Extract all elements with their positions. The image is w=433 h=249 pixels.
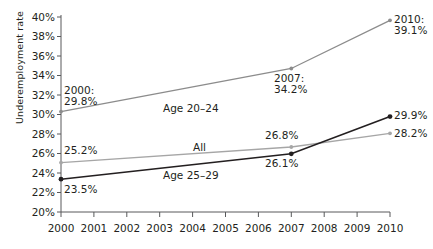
annotation-2007-all-value: 26.8% [265, 130, 298, 142]
x-tick-2001: 2001 [81, 222, 108, 234]
x-tick-2010: 2010 [377, 222, 404, 234]
annotation-2007-age-20-24-value: 34.2% [274, 84, 307, 96]
x-tick-2007: 2007 [278, 222, 305, 234]
series-label-age-25-29: Age 25–29 [163, 170, 219, 182]
x-tick-2003: 2003 [146, 222, 173, 234]
annotation-2010-age-25-29-value: 29.9% [394, 110, 427, 122]
x-tick-2004: 2004 [179, 222, 206, 234]
x-tick-2008: 2008 [311, 222, 338, 234]
x-tick-2002: 2002 [113, 222, 140, 234]
underemployment-rate-line-chart: Underemployment rate 40% 38% 36% 34% 32%… [0, 0, 433, 249]
x-axis-tick-labels: 2000 2001 2002 2003 2004 2005 2006 2007 … [0, 0, 433, 249]
x-tick-2005: 2005 [212, 222, 239, 234]
series-label-all: All [193, 142, 206, 154]
x-tick-2006: 2006 [245, 222, 272, 234]
annotation-2000-age-20-24-value: 29.8% [64, 96, 97, 108]
annotation-2000-all-value: 25.2% [64, 145, 97, 157]
annotation-2000-age-25-29-value: 23.5% [64, 184, 97, 196]
annotation-2007-age-25-29-value: 26.1% [265, 158, 298, 170]
annotation-2010-all-value: 28.2% [394, 128, 427, 140]
x-tick-2009: 2009 [344, 222, 371, 234]
annotation-2010-age-20-24-value: 39.1% [394, 25, 427, 37]
series-label-age-20-24: Age 20–24 [163, 103, 219, 115]
x-tick-2000: 2000 [48, 222, 75, 234]
